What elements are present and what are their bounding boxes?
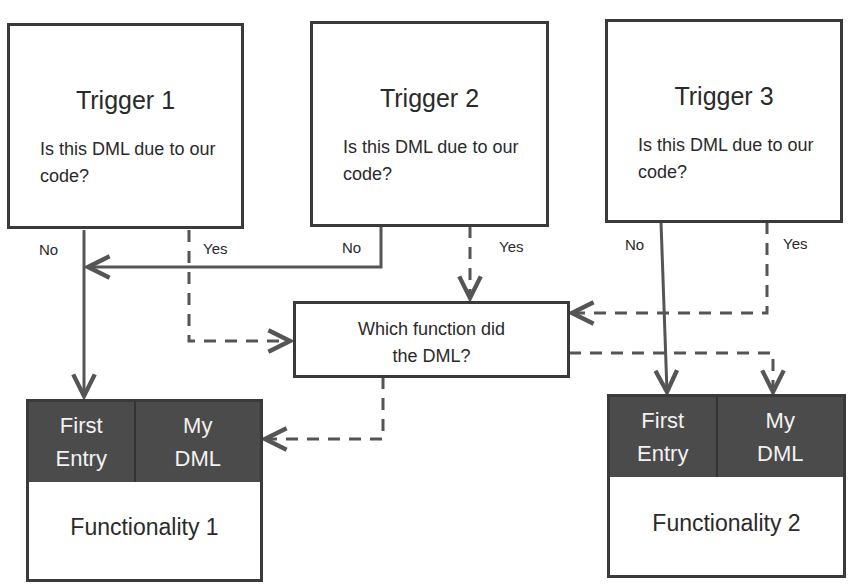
trigger-2-yes-label: Yes <box>499 238 523 255</box>
first-entry-cell: First Entry <box>29 402 134 482</box>
first-entry-cell: First Entry <box>610 397 716 477</box>
functionality-name: Functionality 2 <box>610 510 843 537</box>
my-dml-cell: My DML <box>716 397 844 477</box>
trigger-2-no-label: No <box>342 239 361 256</box>
trigger-question: Is this DML due to our code? <box>638 132 830 186</box>
trigger-1-box: Trigger 1 Is this DML due to our code? <box>7 23 244 229</box>
trigger-title: Trigger 2 <box>313 84 546 113</box>
trigger-3-box: Trigger 3 Is this DML due to our code? <box>605 19 843 223</box>
decision-box: Which function did the DML? <box>293 301 570 378</box>
trigger-question: Is this DML due to our code? <box>40 136 231 190</box>
trigger-1-no-label: No <box>39 241 58 258</box>
functionality-name: Functionality 1 <box>29 514 260 541</box>
trigger-2-box: Trigger 2 Is this DML due to our code? <box>310 21 549 227</box>
trigger-3-yes-label: Yes <box>783 235 807 252</box>
my-dml-cell: My DML <box>134 402 261 482</box>
trigger-title: Trigger 3 <box>608 82 840 111</box>
trigger-3-no-label: No <box>625 236 644 253</box>
trigger-1-yes-label: Yes <box>203 240 227 257</box>
functionality-header: First Entry My DML <box>29 402 260 482</box>
trigger-title: Trigger 1 <box>10 86 241 115</box>
functionality-header: First Entry My DML <box>610 397 843 477</box>
functionality-1-box: First Entry My DML Functionality 1 <box>26 399 263 582</box>
decision-text: Which function did the DML? <box>296 316 567 370</box>
functionality-2-box: First Entry My DML Functionality 2 <box>607 394 846 578</box>
trigger-question: Is this DML due to our code? <box>343 134 536 188</box>
